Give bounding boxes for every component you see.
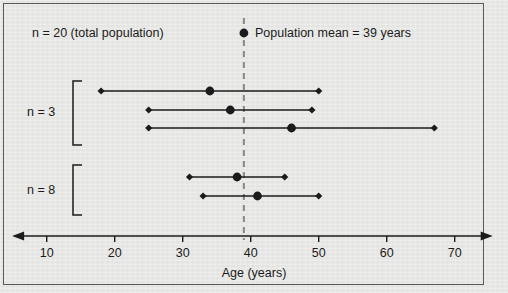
x-axis-right-arrow [481, 232, 493, 241]
x-tick-label: 60 [380, 247, 394, 260]
legend-population-mean-dot [240, 29, 249, 38]
x-axis-left-arrow [12, 232, 24, 241]
group-bracket [73, 165, 82, 215]
sample-max-marker [315, 192, 322, 199]
group-label-n8: n = 8 [27, 184, 55, 197]
sample-min-marker [200, 192, 207, 199]
sample-mean-dot [287, 124, 296, 133]
x-axis-title: Age (years) [222, 267, 287, 280]
x-tick-label: 70 [448, 247, 462, 260]
sample-mean-dot [226, 106, 235, 115]
sample-min-marker [186, 173, 193, 180]
sample-min-marker [145, 106, 152, 113]
x-tick-label: 40 [244, 247, 258, 260]
x-tick-label: 20 [108, 247, 122, 260]
sample-mean-dot [233, 173, 242, 182]
sample-mean-dot [253, 192, 262, 201]
group-bracket [73, 81, 82, 145]
sample-max-marker [281, 173, 288, 180]
sample-min-marker [145, 124, 152, 131]
sample-max-marker [308, 106, 315, 113]
legend-total-population-label: n = 20 (total population) [32, 27, 164, 40]
sample-mean-dot [206, 87, 215, 96]
legend-mean-label: Population mean = 39 years [255, 27, 411, 40]
x-tick-label: 10 [40, 247, 54, 260]
x-tick-label: 50 [312, 247, 326, 260]
sample-max-marker [431, 124, 438, 131]
sample-max-marker [315, 87, 322, 94]
figure-container: n = 20 (total population) Population mea… [0, 0, 508, 293]
sample-min-marker [98, 87, 105, 94]
x-tick-label: 30 [176, 247, 190, 260]
group-label-n3: n = 3 [27, 106, 55, 119]
